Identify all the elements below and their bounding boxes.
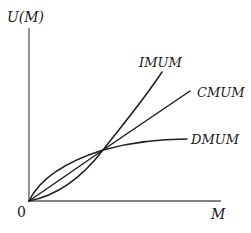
cmum-curve [29,91,190,201]
x-axis-label: M [210,206,226,222]
imum-label: IMUM [138,55,182,70]
dmum-label: DMUM [190,132,240,147]
utility-of-money-diagram: U(M) 0 M IMUM CMUM DMUM [0,0,251,233]
diagram-canvas: U(M) 0 M IMUM CMUM DMUM [0,0,251,233]
cmum-label: CMUM [197,85,245,100]
dmum-curve [29,139,187,201]
origin-label: 0 [17,204,26,220]
imum-curve [29,72,162,201]
y-axis-label: U(M) [7,9,44,25]
